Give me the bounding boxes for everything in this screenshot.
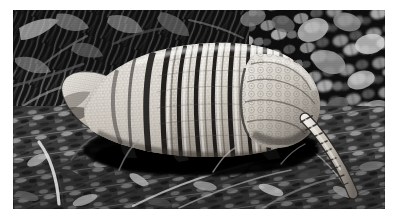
- page-root: [0, 0, 399, 220]
- photograph-canvas: [13, 10, 385, 209]
- photograph: [13, 10, 385, 209]
- photo-caption: [13, 211, 385, 219]
